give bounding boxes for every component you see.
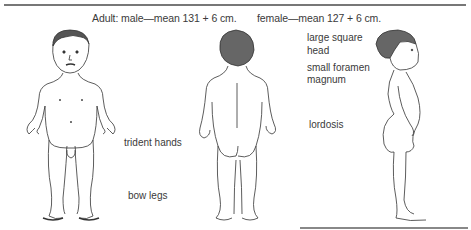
bottom-rule bbox=[300, 227, 468, 229]
caption-male-height: Adult: male—mean 131 + 6 cm. bbox=[92, 12, 237, 24]
child-figure-back-icon bbox=[192, 28, 282, 228]
label-lordosis: lordosis bbox=[309, 119, 343, 131]
label-head: head bbox=[307, 45, 329, 57]
caption-female-height: female—mean 127 + 6 cm. bbox=[257, 12, 381, 24]
child-figure-side-icon bbox=[370, 28, 460, 228]
label-bow-legs: bow legs bbox=[128, 190, 167, 202]
label-large-square: large square bbox=[307, 32, 363, 44]
child-figure-front-icon bbox=[15, 28, 125, 228]
label-magnum: magnum bbox=[307, 74, 346, 86]
label-trident-hands: trident hands bbox=[124, 137, 182, 149]
top-rule bbox=[4, 4, 466, 6]
label-small-foramen: small foramen bbox=[307, 62, 370, 74]
